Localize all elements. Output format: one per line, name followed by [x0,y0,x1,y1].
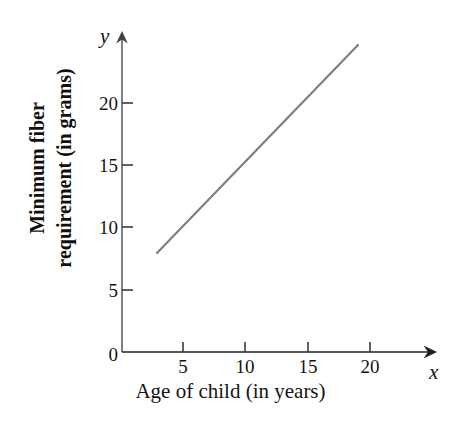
y-axis-title-line-2: requirement (in grams) [51,18,78,318]
y-tick-label-15: 15 [78,156,118,175]
y-tick-label-20: 20 [78,94,118,113]
x-axis-title: Age of child (in years) [0,379,461,403]
y-axis [116,31,128,352]
origin-label: 0 [78,345,118,364]
y-axis-ticks [122,103,133,290]
y-axis-title: Minimum fiber requirement (in grams) [24,18,78,318]
x-tick-label-20: 20 [350,357,390,376]
y-axis-variable-label: y [100,26,109,47]
y-tick-label-10: 10 [78,218,118,237]
chart-figure: y x 0 5 10 15 20 5 10 15 20 Age of child… [0,0,461,426]
x-tick-label-5: 5 [163,357,203,376]
y-tick-label-5: 5 [78,281,118,300]
x-axis-ticks [183,342,370,352]
series-line [157,45,358,253]
y-axis-title-line-1: Minimum fiber [24,18,51,318]
x-tick-label-15: 15 [288,357,328,376]
data-series-minimum-fiber-requirement [157,45,358,253]
x-tick-label-10: 10 [225,357,265,376]
